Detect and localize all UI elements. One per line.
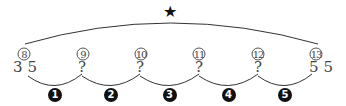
step-arc-5 [258,74,312,86]
position-value: ? [136,60,144,75]
step-number-1: 1 [48,88,62,102]
step-number-2: 2 [104,88,118,102]
position-value: 5 5 [309,60,333,75]
step-arc-3 [140,74,199,86]
step-number-4: 4 [222,88,236,102]
position-value: ? [195,60,203,75]
position-value: 3 5 [13,60,37,75]
step-arc-1 [28,74,82,86]
step-arc-2 [82,74,140,86]
step-arc-4 [199,74,258,86]
position-value: ? [254,60,262,75]
step-number-5: 5 [278,88,292,102]
step-number-3: 3 [163,88,177,102]
star-icon: ★ [163,4,177,20]
position-value: ? [78,60,86,75]
overall-span-arc [25,23,318,44]
